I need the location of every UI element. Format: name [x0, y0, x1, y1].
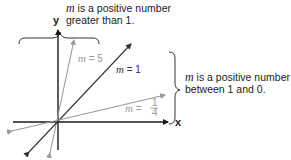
line-m-quarter [12, 95, 165, 131]
fraction-denominator: 4 [152, 107, 158, 118]
slope-diagram: x y m = 5 m = 1 m = 1 4 [0, 0, 291, 160]
line-m5 [50, 40, 74, 153]
x-axis-label: x [175, 116, 182, 128]
y-axis-label: y [53, 14, 60, 26]
label-m1: m = 1 [116, 63, 141, 75]
label-m5: m = 5 [78, 52, 103, 64]
right-brace [169, 52, 180, 124]
top-brace [19, 32, 99, 44]
label-m-quarter: m = [125, 102, 142, 114]
